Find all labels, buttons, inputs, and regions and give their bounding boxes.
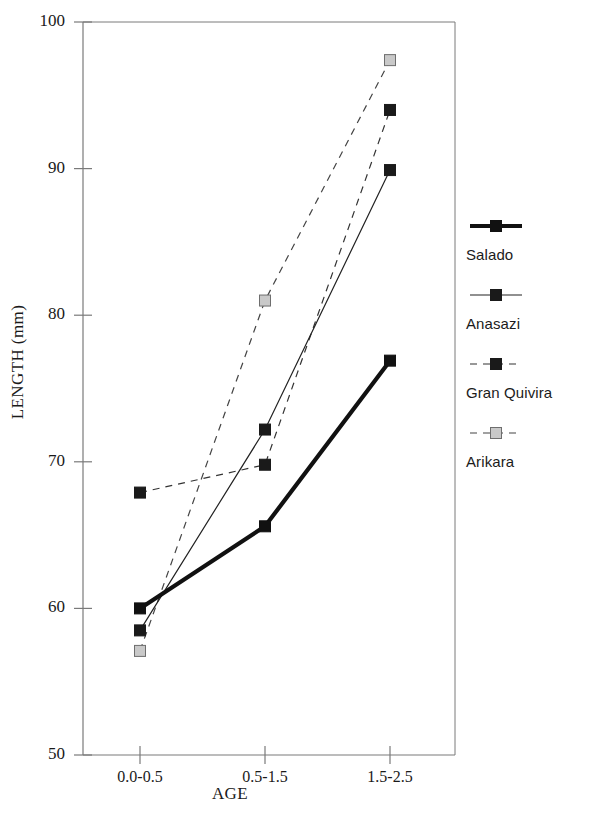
legend-marker-icon [466,284,526,306]
series-lines [135,55,396,657]
legend-entry: Salado [466,215,593,263]
data-point-marker [135,645,146,656]
y-tick-label: 50 [21,744,65,764]
data-point-marker [260,295,271,306]
data-point-marker [385,104,396,115]
legend-entry: Gran Quivira [466,353,593,401]
legend-swatch [466,353,593,375]
data-point-marker [135,487,146,498]
legend-swatch [466,284,593,306]
legend-label: Arikara [466,444,593,470]
y-axis-title: LENGTH (mm) [8,282,28,442]
legend-entry: Anasazi [466,284,593,332]
series-line [140,170,390,630]
y-tick-label: 100 [21,11,65,31]
data-point-marker [385,355,396,366]
legend-label: Salado [466,237,593,263]
legend-marker-icon [466,422,526,444]
x-axis-title: AGE [0,784,460,804]
data-point-marker [385,55,396,66]
data-point-marker [260,424,271,435]
legend-marker-icon [466,215,526,237]
data-point-marker [260,521,271,532]
legend-label: Gran Quivira [466,375,593,401]
legend-marker-icon [466,353,526,375]
data-point-marker [260,459,271,470]
legend-label: Anasazi [466,306,593,332]
legend-swatch [466,422,593,444]
y-tick-label: 60 [21,597,65,617]
y-tick-label: 90 [21,158,65,178]
axes [74,22,455,764]
data-point-marker [135,625,146,636]
data-point-marker [135,603,146,614]
legend-entry: Arikara [466,422,593,470]
y-tick-label: 70 [21,451,65,471]
chart-figure: 5060708090100 0.0-0.50.5-1.51.5-2.5 LENG… [0,0,593,813]
chart-legend: SaladoAnasaziGran QuiviraArikara [466,215,593,491]
series-line [140,60,390,651]
data-point-marker [385,165,396,176]
legend-swatch [466,215,593,237]
